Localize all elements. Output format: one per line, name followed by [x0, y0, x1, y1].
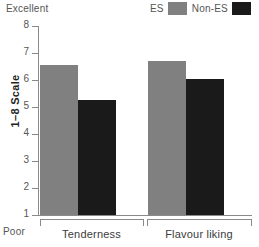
legend-swatch	[168, 2, 187, 15]
y-axis-tick-label: 1	[10, 208, 29, 219]
category-label-flavour-liking: Flavour liking	[147, 228, 251, 240]
y-axis-tick-label: 5	[10, 100, 29, 111]
category-axis	[38, 219, 252, 227]
y-axis-tick-label: 7	[10, 46, 29, 57]
chart-legend: ESNon-ES	[150, 2, 251, 15]
legend-entry-es[interactable]: ES	[150, 2, 187, 15]
y-axis-tick-label: 6	[10, 73, 29, 84]
legend-swatch	[232, 2, 251, 15]
y-axis-tick-label: 3	[10, 154, 29, 165]
category-tick	[147, 219, 148, 226]
scale-bottom-annotation: Poor	[3, 226, 25, 237]
plot-area	[38, 26, 252, 215]
legend-entry-non-es[interactable]: Non-ES	[192, 2, 251, 15]
scale-top-annotation: Excellent	[6, 3, 48, 14]
bar-es-flavour-liking	[148, 61, 186, 215]
bar-es-tenderness	[40, 65, 78, 215]
bar-chart: Excellent Poor ESNon-ES 1–8 Scale 123456…	[0, 0, 259, 247]
y-axis-tick	[32, 215, 38, 216]
category-rule	[147, 219, 251, 220]
legend-label: ES	[150, 3, 164, 14]
y-axis-tick-label: 8	[10, 19, 29, 30]
legend-label: Non-ES	[192, 3, 228, 14]
category-tick	[251, 219, 252, 226]
category-label-tenderness: Tenderness	[40, 228, 143, 240]
bar-non-es-flavour-liking	[186, 79, 224, 215]
category-rule	[40, 219, 143, 220]
category-tick	[143, 219, 144, 226]
x-axis-line	[38, 215, 252, 216]
y-axis-tick-label: 4	[10, 127, 29, 138]
category-tick	[40, 219, 41, 226]
bar-non-es-tenderness	[78, 100, 116, 215]
y-axis-tick-label: 2	[10, 181, 29, 192]
